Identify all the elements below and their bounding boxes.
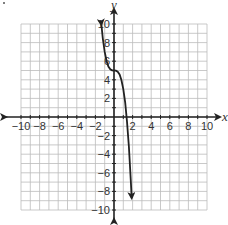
y-tick-label: 4: [104, 74, 110, 86]
x-tick-label: −4: [71, 120, 84, 132]
y-tick-label: −2: [97, 130, 110, 142]
x-tick-label: 10: [201, 120, 213, 132]
y-tick-label: −8: [97, 185, 110, 197]
coordinate-plane: −10−8−6−4−2246810−10−8−6−4−2246810 x y: [0, 0, 228, 225]
x-tick-label: −6: [52, 120, 65, 132]
x-axis-label: x: [221, 109, 228, 124]
x-tick-label: 8: [185, 120, 191, 132]
axes: [6, 9, 220, 219]
y-axis-label: y: [109, 0, 117, 12]
x-tick-label: 4: [148, 120, 154, 132]
x-tick-label: 6: [167, 120, 173, 132]
y-tick-label: −6: [97, 167, 110, 179]
x-tick-label: −10: [12, 120, 31, 132]
y-tick-label: 2: [104, 92, 110, 104]
x-tick-label: −8: [33, 120, 46, 132]
y-tick-label: −4: [97, 148, 110, 160]
y-tick-label: 10: [98, 18, 110, 30]
y-tick-label: −10: [91, 204, 110, 216]
x-tick-label: 2: [130, 120, 136, 132]
